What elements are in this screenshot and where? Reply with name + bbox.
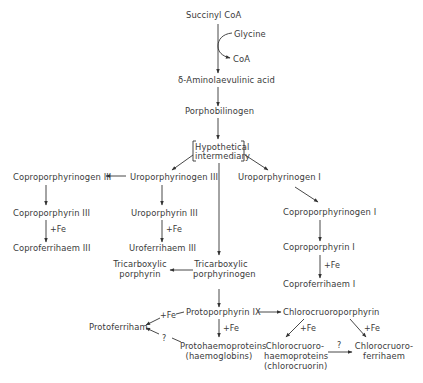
node-coproporphyrinogen-iii: Coproporphyrinogen III xyxy=(13,172,111,182)
label-unknown-protoferriham: ? xyxy=(162,334,166,344)
node-glycine: Glycine xyxy=(234,29,266,39)
node-protoporphyrin-ix: Protoporphyrin IX xyxy=(186,307,261,317)
node-porphobilinogen: Porphobilinogen xyxy=(185,106,254,116)
pathway-arrows xyxy=(0,0,423,383)
label-fe-protoferriham: +Fe xyxy=(160,311,176,321)
node-coproporphyrinogen-i: Coproporphyrinogen I xyxy=(283,207,376,217)
node-chlorocruorohaemoproteins-line1: Chlorocruoro- xyxy=(264,341,326,351)
node-hypothetical-line2: intermediary xyxy=(195,151,241,161)
node-aminolaevulinic-acid: δ-Aminolaevulinic acid xyxy=(178,75,275,85)
label-fe-protohaemo: +Fe xyxy=(223,324,239,334)
node-tricarboxylic-porphyrinogen-line1: Tricarboxylic xyxy=(193,259,249,269)
node-chlorocruorohaemoproteins-line2: haemoproteins xyxy=(264,351,326,361)
node-protoferriham: Protoferriham xyxy=(89,322,148,332)
node-chlorocruoroferrihaem-line2: ferrihaem xyxy=(354,351,414,361)
label-fe-copro-i: +Fe xyxy=(324,261,340,271)
label-fe-chloro-ferri: +Fe xyxy=(364,324,380,334)
node-uroporphyrinogen-i: Uroporphyrinogen I xyxy=(238,172,321,182)
label-unknown-chloro: ? xyxy=(337,341,341,351)
node-uroporphyrin-iii: Uroporphyrin III xyxy=(131,208,198,218)
label-fe-uro-iii: +Fe xyxy=(166,225,182,235)
heme-biosynthesis-diagram: Succinyl CoA Glycine CoA δ-Aminolaevulin… xyxy=(0,0,423,383)
node-protohaemoproteins-line1: Protohaemoproteins xyxy=(180,341,258,351)
node-succinyl-coa: Succinyl CoA xyxy=(186,10,241,20)
node-coproferrihaem-iii: Coproferrihaem III xyxy=(13,243,90,253)
label-fe-chloro-haemo: +Fe xyxy=(300,324,316,334)
node-tricarboxylic-porphyrin-line1: Tricarboxylic xyxy=(112,259,168,269)
node-tricarboxylic-porphyrinogen-line2: porphyrinogen xyxy=(193,269,249,279)
node-coproporphyrin-i: Coproporphyrin I xyxy=(283,242,355,252)
node-coa: CoA xyxy=(233,54,250,64)
node-coproporphyrin-iii: Coproporphyrin III xyxy=(13,208,90,218)
label-fe-copro-iii: +Fe xyxy=(50,225,66,235)
node-protohaemoproteins-line2: (haemoglobins) xyxy=(180,351,258,361)
node-tricarboxylic-porphyrin-line2: porphyrin xyxy=(112,269,168,279)
node-chlorocruoroferrihaem-line1: Chlorocruoro- xyxy=(354,341,414,351)
node-chlorocruorohaemoproteins-line3: (chlorocruorin) xyxy=(264,361,326,371)
node-chlorocruoroporphyrin: Chlorocruoroporphyrin xyxy=(283,307,380,317)
node-uroporphyrinogen-iii: Uroporphyrinogen III xyxy=(130,172,218,182)
node-coproferrihaem-i: Coproferrihaem I xyxy=(283,279,355,289)
node-uroferrihaem-iii: Uroferrihaem III xyxy=(129,243,196,253)
